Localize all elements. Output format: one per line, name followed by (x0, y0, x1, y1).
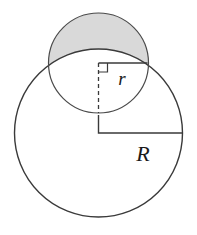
large-radius-segment (99, 115, 183, 133)
large-radius-label: R (135, 141, 150, 166)
geometry-diagram: r R (0, 0, 197, 235)
geometry-canvas: r R (0, 0, 197, 235)
small-radius-label: r (118, 68, 126, 89)
